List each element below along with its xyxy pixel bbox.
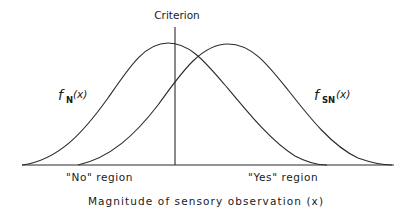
svg-text:(x): (x) bbox=[73, 88, 87, 100]
svg-text:(x): (x) bbox=[336, 88, 350, 100]
signal-noise-label: f SN (x) bbox=[314, 87, 350, 105]
yes-region-label: "Yes" region bbox=[248, 171, 318, 183]
x-axis-label: Magnitude of sensory observation (x) bbox=[88, 195, 324, 207]
criterion-label: Criterion bbox=[154, 9, 199, 21]
svg-text:f: f bbox=[314, 87, 321, 103]
no-region-label: "No" region bbox=[66, 171, 133, 183]
svg-text:f: f bbox=[58, 87, 65, 103]
signal-noise-distribution-curve bbox=[78, 44, 392, 165]
noise-label: f N (x) bbox=[58, 87, 87, 105]
svg-text:SN: SN bbox=[322, 95, 335, 105]
signal-detection-diagram: Criterion f N (x) f SN (x) "No" region "… bbox=[0, 0, 407, 211]
